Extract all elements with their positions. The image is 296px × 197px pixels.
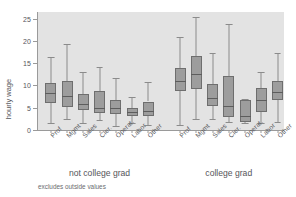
interquartile-box: [78, 94, 89, 109]
upper-whisker-cap: [96, 67, 103, 68]
y-tick-label: 0: [27, 127, 31, 134]
box-plot-box: [78, 12, 89, 130]
lower-whisker-cap: [177, 125, 184, 126]
upper-whisker-cap: [274, 53, 281, 54]
interquartile-box: [175, 68, 186, 91]
lower-whisker-cap: [242, 123, 249, 124]
upper-whisker-cap: [225, 24, 232, 25]
box-plot-box: [127, 12, 138, 130]
y-tick-label: 5: [27, 104, 31, 111]
lower-whisker-cap: [64, 119, 71, 120]
upper-whisker-cap: [64, 44, 71, 45]
y-tick-mark: [33, 19, 37, 20]
upper-whisker-cap: [129, 97, 136, 98]
interquartile-box: [94, 91, 105, 113]
upper-whisker-cap: [112, 78, 119, 79]
box-plot-box: [240, 12, 251, 130]
box-plot-box: [45, 12, 56, 130]
y-tick-mark: [33, 130, 37, 131]
upper-whisker: [196, 17, 197, 55]
upper-whisker: [228, 24, 229, 76]
median-line: [127, 112, 138, 113]
upper-whisker: [132, 97, 133, 108]
interquartile-box: [240, 100, 251, 122]
upper-whisker: [99, 67, 100, 91]
upper-whisker: [212, 53, 213, 84]
upper-whisker: [115, 78, 116, 99]
box-plot-box: [94, 12, 105, 130]
lower-whisker: [180, 91, 181, 125]
y-tick-label: 25: [23, 15, 31, 22]
lower-whisker: [277, 100, 278, 122]
lower-whisker-cap: [96, 120, 103, 121]
upper-whisker: [261, 72, 262, 88]
median-line: [143, 111, 154, 112]
plot-area: 0510152025 ProfMgmtSalesCler.Operat.Labo…: [37, 12, 284, 130]
lower-whisker: [196, 89, 197, 120]
interquartile-box: [207, 84, 218, 106]
box-plot-box: [191, 12, 202, 130]
interquartile-box: [191, 56, 202, 89]
upper-whisker: [67, 44, 68, 81]
group-caption: not college grad: [69, 168, 130, 178]
lower-whisker-cap: [225, 122, 232, 123]
box-plot-box: [143, 12, 154, 130]
y-axis-line: [37, 12, 38, 130]
y-axis-label: hourly wage: [4, 78, 13, 118]
upper-whisker: [148, 82, 149, 101]
median-line: [175, 81, 186, 82]
median-line: [256, 100, 267, 101]
interquartile-box: [143, 102, 154, 117]
median-line: [191, 74, 202, 75]
median-line: [94, 108, 105, 109]
box-plot-box: [207, 12, 218, 130]
lower-whisker-cap: [47, 123, 54, 124]
upper-whisker: [180, 37, 181, 68]
footnote: excludes outside values: [38, 183, 106, 190]
median-line: [207, 98, 218, 99]
upper-whisker-cap: [258, 72, 265, 73]
lower-whisker: [83, 110, 84, 123]
y-tick-label: 10: [23, 82, 31, 89]
box-plot-box: [272, 12, 283, 130]
median-line: [62, 96, 73, 97]
interquartile-box: [223, 76, 234, 117]
y-tick-label: 15: [23, 60, 31, 67]
box-plot-box: [256, 12, 267, 130]
interquartile-box: [62, 81, 73, 107]
box-plot-box: [110, 12, 121, 130]
median-line: [78, 104, 89, 105]
median-line: [45, 93, 56, 94]
y-tick-mark: [33, 85, 37, 86]
interquartile-box: [272, 81, 283, 100]
lower-whisker: [50, 103, 51, 123]
y-tick-label: 20: [23, 37, 31, 44]
lower-whisker-cap: [209, 119, 216, 120]
y-tick-mark: [33, 63, 37, 64]
box-plot-figure: hourly wage 0510152025 ProfMgmtSalesCler…: [0, 0, 296, 197]
upper-whisker-cap: [80, 72, 87, 73]
upper-whisker-cap: [209, 53, 216, 54]
box-plot-box: [62, 12, 73, 130]
lower-whisker-cap: [193, 119, 200, 120]
median-line: [223, 106, 234, 107]
upper-whisker-cap: [193, 17, 200, 18]
median-line: [240, 116, 251, 117]
upper-whisker: [83, 72, 84, 94]
upper-whisker: [277, 53, 278, 81]
upper-whisker-cap: [145, 82, 152, 83]
lower-whisker: [212, 106, 213, 119]
box-plot-box: [175, 12, 186, 130]
median-line: [110, 108, 121, 109]
upper-whisker-cap: [177, 37, 184, 38]
lower-whisker-cap: [112, 126, 119, 127]
lower-whisker: [67, 107, 68, 119]
upper-whisker: [50, 57, 51, 83]
y-tick-mark: [33, 108, 37, 109]
lower-whisker: [115, 114, 116, 125]
box-plot-box: [223, 12, 234, 130]
y-tick-mark: [33, 41, 37, 42]
lower-whisker: [99, 113, 100, 121]
lower-whisker-cap: [80, 123, 87, 124]
lower-whisker-cap: [274, 122, 281, 123]
